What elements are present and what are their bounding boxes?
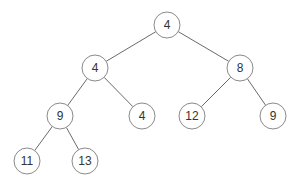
node-label: 9: [270, 109, 277, 123]
tree-node: 9: [260, 103, 286, 129]
tree-nodes: 448941291113: [14, 12, 286, 174]
node-label: 9: [57, 109, 64, 123]
node-label: 13: [78, 154, 92, 168]
node-label: 4: [139, 109, 146, 123]
node-label: 12: [185, 109, 199, 123]
tree-edge: [35, 126, 53, 150]
node-label: 4: [164, 18, 171, 32]
tree-edge: [66, 127, 78, 149]
tree-edge: [247, 79, 265, 106]
tree-node: 9: [47, 103, 73, 129]
tree-edge: [68, 79, 88, 106]
tree-node: 11: [14, 148, 40, 174]
tree-diagram: 448941291113: [0, 0, 298, 185]
tree-node: 8: [227, 55, 253, 81]
tree-edge: [106, 32, 156, 62]
tree-node: 4: [154, 12, 180, 38]
tree-edge: [178, 32, 229, 62]
tree-edge: [201, 77, 231, 107]
tree-node: 4: [129, 103, 155, 129]
tree-node: 12: [179, 103, 205, 129]
node-label: 11: [21, 154, 34, 168]
tree-node: 13: [72, 148, 98, 174]
tree-node: 4: [82, 55, 108, 81]
tree-edge: [104, 77, 133, 106]
node-label: 8: [237, 61, 244, 75]
node-label: 4: [92, 61, 99, 75]
tree-edges: [35, 32, 266, 151]
